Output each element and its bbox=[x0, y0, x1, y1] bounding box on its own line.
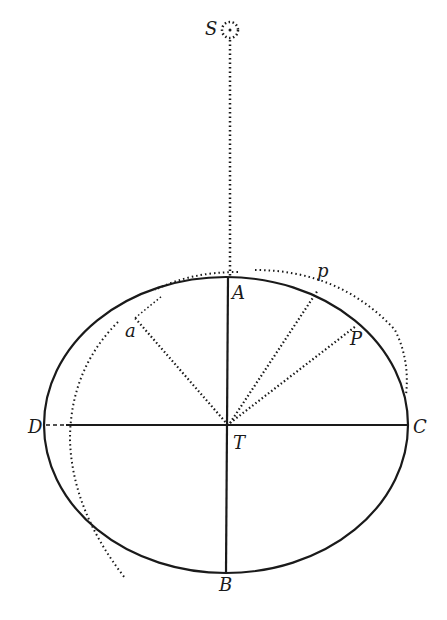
label-s: S bbox=[205, 20, 217, 38]
label-p-large: P bbox=[350, 330, 362, 348]
label-a-lower: a bbox=[125, 322, 136, 340]
radius-t-to-a-small bbox=[135, 318, 228, 425]
label-t: T bbox=[233, 434, 245, 452]
label-p-small: p bbox=[317, 262, 329, 280]
outer-dotted-arc-top bbox=[155, 272, 238, 290]
sun-center bbox=[229, 29, 232, 32]
inner-dotted-arc-left bbox=[70, 322, 125, 578]
radius-t-to-p-large bbox=[230, 326, 356, 423]
label-d: D bbox=[28, 418, 42, 436]
label-b: B bbox=[219, 576, 232, 594]
radius-t-to-p-small bbox=[230, 290, 318, 423]
outer-dotted-arc-right bbox=[255, 270, 407, 395]
radius-t-to-a-small-ext bbox=[135, 296, 162, 318]
label-a-upper: A bbox=[232, 284, 245, 302]
label-c: C bbox=[413, 418, 427, 436]
ellipse-orbit-diagram bbox=[0, 0, 447, 620]
